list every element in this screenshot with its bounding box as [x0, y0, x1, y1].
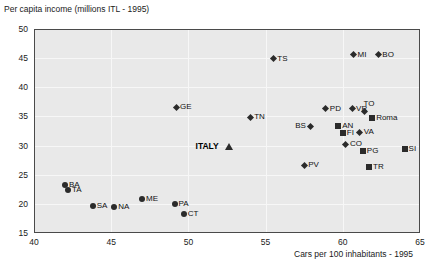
point-label: PD: [330, 105, 341, 113]
x-axis-tick-label: 65: [405, 237, 435, 247]
point-label: VA: [364, 128, 374, 136]
y-axis-tick-label: 40: [2, 82, 28, 92]
marker-square-icon: [340, 130, 346, 136]
marker-square-icon: [366, 164, 372, 170]
point-label: ME: [146, 195, 158, 203]
point-label: SI: [409, 145, 417, 153]
x-axis-title: Cars per 100 inhabitants - 1995: [294, 249, 413, 259]
point-label: TO: [363, 100, 374, 108]
y-axis-tick-label: 20: [2, 199, 28, 209]
point-label: GE: [180, 103, 192, 111]
y-axis-tick-label: 30: [2, 141, 28, 151]
point-label: MI: [358, 51, 367, 59]
y-axis-title: Per capita income (millions ITL - 1995): [4, 4, 149, 14]
marker-circle-icon: [90, 203, 96, 209]
point-label: BO: [382, 51, 394, 59]
x-axis-tick-label: 45: [96, 237, 126, 247]
point-label: Roma: [376, 114, 397, 122]
x-axis-tick-label: 40: [19, 237, 49, 247]
point-label: CT: [188, 210, 199, 218]
x-axis-tick-label: 55: [251, 237, 281, 247]
gridline-horizontal: [35, 116, 419, 117]
marker-square-icon: [360, 148, 366, 154]
point-label: ITALY: [196, 142, 219, 150]
point-label: TN: [254, 113, 265, 121]
point-label: NA: [118, 203, 129, 211]
x-axis-tick-label: 60: [328, 237, 358, 247]
y-axis-tick-label: 35: [2, 111, 28, 121]
point-label: TA: [72, 186, 82, 194]
x-axis-tick-label: 50: [173, 237, 203, 247]
marker-square-icon: [402, 146, 408, 152]
gridline-horizontal: [35, 87, 419, 88]
marker-circle-icon: [172, 201, 178, 207]
gridline-horizontal: [35, 175, 419, 176]
marker-circle-icon: [139, 196, 145, 202]
marker-triangle-icon: [225, 143, 233, 150]
y-axis-tick-label: 25: [2, 170, 28, 180]
point-label: BS: [295, 122, 306, 130]
gridline-vertical: [266, 30, 267, 232]
y-axis-tick-label: 50: [2, 24, 28, 34]
point-label: PG: [367, 147, 379, 155]
point-label: SA: [97, 202, 108, 210]
marker-square-icon: [335, 123, 341, 129]
scatter-chart-figure: Per capita income (millions ITL - 1995) …: [0, 0, 438, 267]
marker-square-icon: [369, 115, 375, 121]
point-label: FI: [347, 129, 354, 137]
point-label: TR: [373, 163, 384, 171]
gridline-vertical: [111, 30, 112, 232]
point-label: PA: [179, 200, 189, 208]
y-axis-tick-label: 45: [2, 53, 28, 63]
point-label: TS: [277, 55, 287, 63]
point-label: PV: [308, 161, 319, 169]
marker-circle-icon: [181, 211, 187, 217]
